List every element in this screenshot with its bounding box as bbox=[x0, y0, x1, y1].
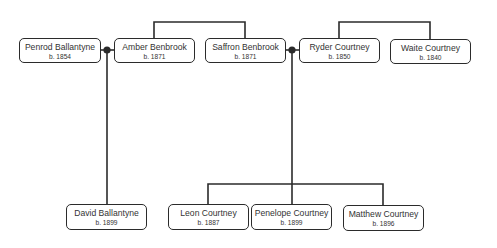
person-birth-year: b. 1871 bbox=[206, 53, 285, 61]
person-name: Penelope Courtney bbox=[252, 208, 331, 219]
sibling-bracket-courtney bbox=[339, 22, 430, 39]
marriage-dot-penrod-amber bbox=[103, 46, 110, 53]
person-penrod-ballantyne: Penrod Ballantyne b. 1854 bbox=[19, 38, 101, 63]
person-matthew-courtney: Matthew Courtney b. 1896 bbox=[343, 205, 424, 231]
person-birth-year: b. 1896 bbox=[344, 220, 423, 228]
person-waite-courtney: Waite Courtney b. 1840 bbox=[390, 39, 471, 64]
person-ryder-courtney: Ryder Courtney b. 1850 bbox=[299, 38, 380, 63]
person-birth-year: b. 1850 bbox=[300, 53, 379, 61]
person-name: Amber Benbrook bbox=[115, 42, 194, 53]
person-birth-year: b. 1899 bbox=[67, 219, 146, 227]
person-saffron-benbrook: Saffron Benbrook b. 1871 bbox=[205, 38, 286, 63]
person-name: Penrod Ballantyne bbox=[20, 42, 100, 53]
person-leon-courtney: Leon Courtney b. 1887 bbox=[168, 204, 249, 230]
marriage-dot-saffron-ryder bbox=[288, 46, 295, 53]
person-birth-year: b. 1871 bbox=[115, 53, 194, 61]
person-amber-benbrook: Amber Benbrook b. 1871 bbox=[114, 38, 195, 63]
person-name: Ryder Courtney bbox=[300, 42, 379, 53]
person-penelope-courtney: Penelope Courtney b. 1899 bbox=[251, 204, 332, 230]
person-birth-year: b. 1887 bbox=[169, 219, 248, 227]
person-name: Waite Courtney bbox=[391, 43, 470, 54]
person-name: Leon Courtney bbox=[169, 208, 248, 219]
sibling-bracket-benbrook bbox=[154, 22, 245, 38]
children-bracket-courtney bbox=[208, 184, 383, 205]
family-tree-diagram: Penrod Ballantyne b. 1854 Amber Benbrook… bbox=[0, 0, 497, 248]
person-birth-year: b. 1854 bbox=[20, 53, 100, 61]
person-name: Saffron Benbrook bbox=[206, 42, 285, 53]
person-birth-year: b. 1899 bbox=[252, 219, 331, 227]
person-name: David Ballantyne bbox=[67, 208, 146, 219]
person-name: Matthew Courtney bbox=[344, 209, 423, 220]
person-birth-year: b. 1840 bbox=[391, 54, 470, 62]
person-david-ballantyne: David Ballantyne b. 1899 bbox=[66, 204, 147, 230]
